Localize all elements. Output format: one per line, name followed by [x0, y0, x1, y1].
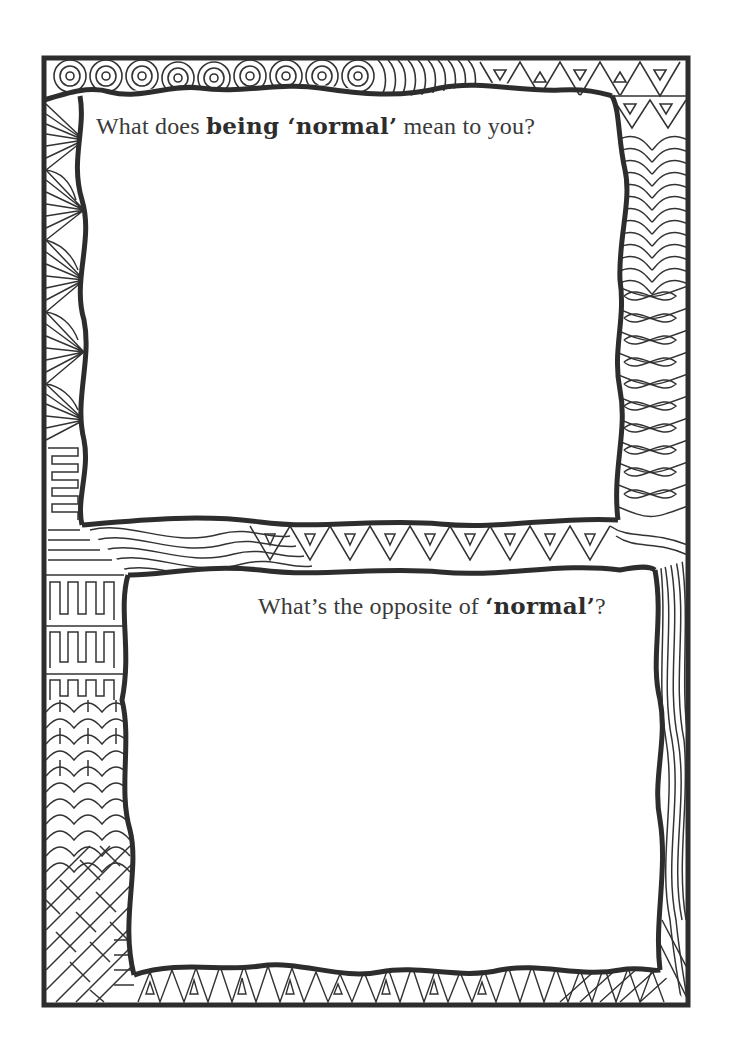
writing-area-2[interactable]	[130, 568, 655, 970]
prompt-emphasis: being ‘normal’	[206, 112, 397, 139]
question-prompt-2: What’s the opposite of ‘normal’?	[258, 592, 606, 620]
left-lower-border-pattern	[46, 700, 134, 1002]
right-lower-border-pattern	[658, 560, 688, 1005]
question-prompt-1: What does being ‘normal’ mean to you?	[96, 112, 535, 140]
writing-area-1[interactable]	[82, 92, 612, 522]
prompt-text: What’s the opposite of	[258, 593, 485, 619]
prompt-text: What does	[96, 113, 206, 139]
prompt-text: mean to you?	[397, 113, 535, 139]
left-middle-border-pattern	[46, 530, 124, 700]
prompt-text: ?	[595, 593, 606, 619]
prompt-emphasis: ‘normal’	[485, 592, 595, 619]
